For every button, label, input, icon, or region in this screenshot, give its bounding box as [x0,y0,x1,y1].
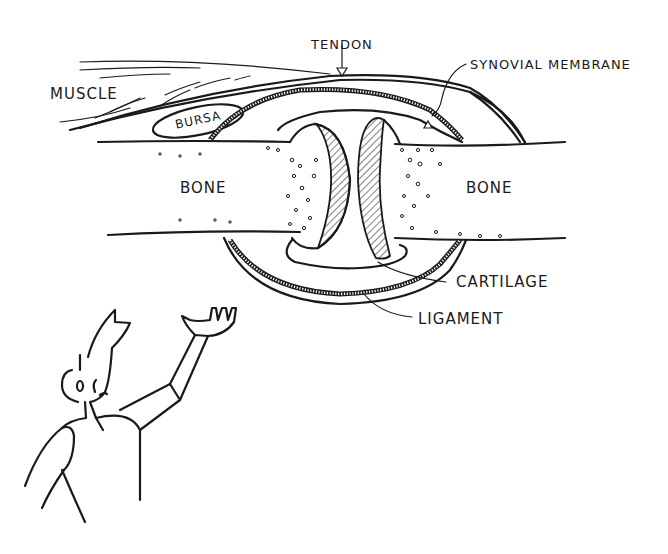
label-synovial-membrane: SYNOVIAL MEMBRANE [470,58,631,71]
ligament-leader [364,294,412,317]
label-bone-left: BONE [180,181,227,196]
label-tendon: TENDON [311,38,373,51]
synovial-membrane-top [210,89,462,140]
joint-diagram: TENDON SYNOVIAL MEMBRANE MUSCLE BURSA BO… [0,0,668,554]
label-cartilage: CARTILAGE [456,275,548,290]
character-illustration [25,308,236,522]
label-muscle: MUSCLE [50,87,118,102]
label-ligament: LIGAMENT [418,312,503,327]
label-bone-right: BONE [466,181,513,196]
diagram-drawing [0,0,668,554]
right-cartilage [358,118,390,259]
left-cartilage [316,124,350,248]
